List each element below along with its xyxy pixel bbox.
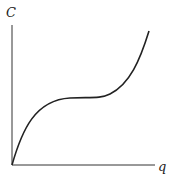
chart-canvas [0, 0, 169, 180]
cost-curve-chart: C q [0, 0, 169, 180]
y-axis-label: C [6, 6, 16, 19]
x-axis-label: q [158, 160, 166, 173]
cost-curve-line [12, 31, 149, 165]
